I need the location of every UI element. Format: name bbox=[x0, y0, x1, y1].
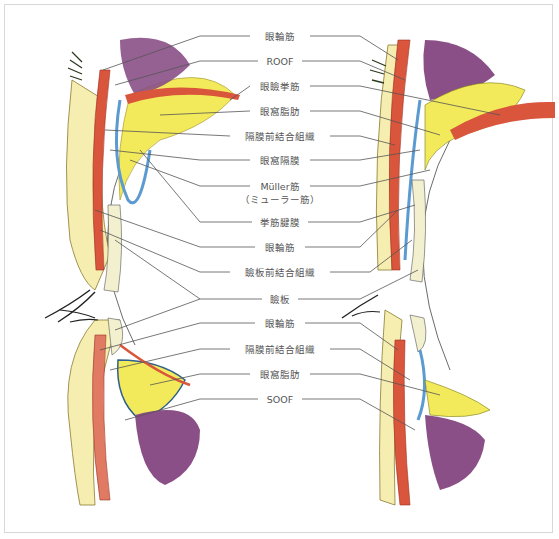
lower-tarsus-left bbox=[108, 318, 123, 355]
lower-lashes-right bbox=[352, 312, 380, 317]
globe-outline-right bbox=[423, 140, 451, 370]
brow-hairs-left bbox=[68, 52, 82, 80]
label-muller-muscle-kana: （ミューラー筋） bbox=[238, 194, 322, 205]
label-tarsus: 瞼板 bbox=[268, 294, 292, 305]
upper-lashes-right bbox=[342, 295, 378, 318]
label-orbicularis-lower: 眼輪筋 bbox=[263, 318, 297, 329]
upper-tarsus-right bbox=[410, 180, 426, 282]
lower-orbicularis-left bbox=[92, 335, 110, 500]
lower-orbit-bone-right bbox=[425, 415, 485, 490]
label-orbicularis-upper: 眼輪筋 bbox=[263, 31, 297, 42]
lower-orbital-fat-right bbox=[425, 380, 490, 417]
label-orbital-fat-upper: 眼窩脂肪 bbox=[258, 106, 302, 117]
label-orbicularis-mid: 眼輪筋 bbox=[263, 242, 297, 253]
lower-orbit-bone-left bbox=[135, 410, 200, 485]
label-muller-muscle: Müller筋 bbox=[258, 181, 301, 192]
upper-lashes-left bbox=[45, 290, 95, 322]
lower-tarsus-right bbox=[410, 315, 426, 352]
label-orbital-septum: 眼窩隔膜 bbox=[258, 155, 302, 166]
label-preseptal-connective-upper: 隔膜前結合組織 bbox=[243, 131, 317, 142]
lower-septum-right bbox=[418, 350, 425, 420]
left-eyelid-section bbox=[45, 38, 240, 505]
label-levator: 眼瞼挙筋 bbox=[258, 81, 302, 92]
label-levator-aponeurosis: 挙筋腱膜 bbox=[258, 217, 302, 228]
label-roof: ROOF bbox=[264, 56, 295, 67]
right-eyelid-section bbox=[342, 40, 555, 505]
lower-lashes-left bbox=[60, 310, 98, 322]
label-preseptal-connective-lower: 隔膜前結合組織 bbox=[243, 344, 317, 355]
label-orbital-fat-lower: 眼窩脂肪 bbox=[258, 369, 302, 380]
label-pretarsal-connective: 瞼板前結合組織 bbox=[243, 267, 317, 278]
label-soof: SOOF bbox=[265, 394, 295, 405]
